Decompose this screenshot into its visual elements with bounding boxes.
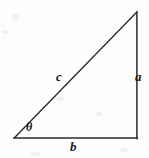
triangle-drawing — [0, 0, 149, 158]
theta-angle-label: θ — [26, 121, 32, 133]
hypotenuse-line — [14, 12, 137, 138]
adjacent-side-label: b — [70, 140, 77, 153]
right-triangle-figure: c a b θ — [0, 0, 149, 158]
hypotenuse-label: c — [56, 70, 62, 83]
opposite-side-label: a — [135, 70, 142, 83]
